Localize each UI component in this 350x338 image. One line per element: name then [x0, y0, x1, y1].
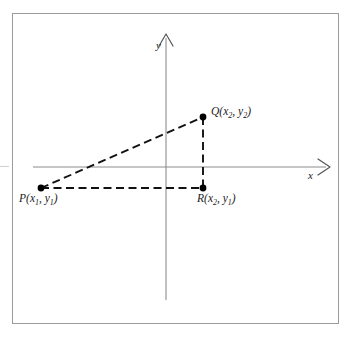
point-q-close-paren: ) [247, 105, 251, 117]
point-p-letter: P [19, 192, 26, 204]
segment-pq-hypotenuse [41, 117, 203, 188]
point-q-label: Q(x2, y2) [211, 106, 251, 120]
point-r-close-paren: ) [232, 192, 236, 204]
x-axis-label: x [308, 170, 313, 181]
point-r-marker [200, 185, 207, 192]
point-r-label: R(x2, y1) [197, 193, 236, 207]
point-r-letter: R [197, 192, 204, 204]
figure-root: y x P(x1, y1) Q(x2, y2) R(x2, y1) [0, 0, 350, 338]
coordinate-plane-svg [0, 0, 350, 338]
point-p-label: P(x1, y1) [19, 193, 58, 207]
y-axis-label: y [156, 40, 161, 51]
point-p-marker [38, 185, 45, 192]
point-p-close-paren: ) [54, 192, 58, 204]
point-q-marker [200, 114, 207, 121]
